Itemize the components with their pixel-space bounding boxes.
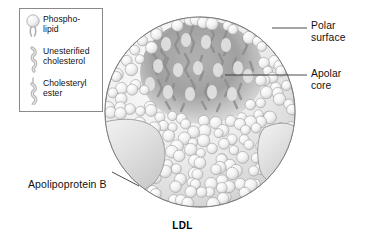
cholesteryl-ester-icon xyxy=(23,77,43,105)
legend: Phospho- lipid Unesterified cholesterol … xyxy=(19,8,103,112)
legend-label-unesterified-cholesterol: Unesterified cholesterol xyxy=(43,45,89,67)
legend-label-cholesteryl-ester: Cholesteryl ester xyxy=(43,77,87,99)
legend-item-cholesteryl-ester: Cholesteryl ester xyxy=(23,77,87,105)
callout-apolar-core: Apolar core xyxy=(311,68,341,92)
unesterified-cholesterol-icon xyxy=(23,45,43,73)
legend-label-phospholipid: Phospho- lipid xyxy=(43,13,80,35)
ldl-particle-figure: Phospho- lipid Unesterified cholesterol … xyxy=(0,0,365,242)
callout-apolipoprotein-b: Apolipoprotein B xyxy=(28,178,107,190)
figure-caption: LDL xyxy=(0,220,365,231)
phospholipid-icon xyxy=(23,13,43,41)
legend-item-phospholipid: Phospho- lipid xyxy=(23,13,80,41)
callout-polar-surface: Polar surface xyxy=(311,20,345,44)
legend-item-unesterified-cholesterol: Unesterified cholesterol xyxy=(23,45,89,73)
